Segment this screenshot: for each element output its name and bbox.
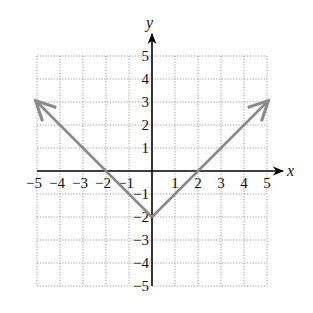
y-tick-label: −5 — [133, 278, 149, 294]
y-tick-label: −3 — [133, 232, 149, 248]
y-axis-label: y — [144, 14, 154, 32]
y-tick-label: 2 — [142, 117, 150, 133]
x-tick-label: −1 — [118, 175, 134, 191]
x-tick-label: 5 — [263, 175, 271, 191]
x-tick-label: 1 — [171, 175, 179, 191]
x-tick-label: 4 — [240, 175, 248, 191]
series-line — [37, 102, 152, 217]
x-tick-label: −4 — [49, 175, 65, 191]
y-tick-label: 4 — [142, 71, 150, 87]
y-tick-label: 3 — [142, 94, 150, 110]
y-tick-label: 5 — [142, 48, 150, 64]
x-tick-label: 3 — [217, 175, 225, 191]
y-tick-label: −4 — [133, 255, 149, 271]
x-tick-label: −2 — [95, 175, 111, 191]
series-line — [152, 102, 267, 217]
axes — [37, 34, 283, 286]
x-tick-label: −5 — [26, 175, 42, 191]
x-axis-label: x — [286, 162, 294, 179]
y-tick-label: 1 — [142, 140, 150, 156]
graph-figure: −5−4−3−2−11234554321−1−2−3−4−5 x y — [0, 0, 313, 313]
x-tick-label: 2 — [194, 175, 202, 191]
x-tick-label: −3 — [72, 175, 88, 191]
